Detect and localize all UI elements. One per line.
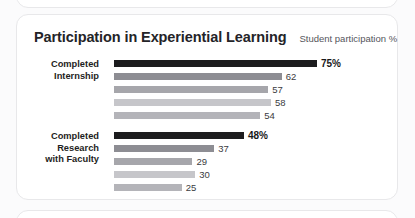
bar-group-label-line: with Faculty bbox=[17, 154, 99, 166]
bar bbox=[114, 60, 317, 67]
chart-subtitle: Student participation % bbox=[299, 33, 397, 44]
bar-row: 37 bbox=[114, 144, 399, 153]
bar-chart-plot: CompletedInternship75%62575854CompletedR… bbox=[17, 59, 399, 192]
bar-row: 57 bbox=[114, 85, 399, 94]
bar-value-label: 48% bbox=[248, 131, 268, 140]
bar bbox=[114, 184, 182, 191]
bar-row: 25 bbox=[114, 183, 399, 192]
chart-header: Participation in Experiential Learning S… bbox=[34, 29, 385, 45]
bar-value-label: 25 bbox=[186, 183, 197, 192]
bar-value-label: 62 bbox=[286, 72, 297, 81]
bar-row: 62 bbox=[114, 72, 399, 81]
bar-group-bars: 75%62575854 bbox=[114, 59, 399, 120]
bar-row: 30 bbox=[114, 170, 399, 179]
bar bbox=[114, 158, 192, 165]
bar-group: CompletedResearchwith Faculty48%37293025 bbox=[17, 131, 399, 192]
bar bbox=[114, 112, 260, 119]
card-above-partial bbox=[16, 0, 398, 8]
bar-group-label-line: Completed bbox=[17, 131, 99, 143]
chart-card: Participation in Experiential Learning S… bbox=[16, 14, 398, 200]
card-below-partial bbox=[16, 210, 398, 218]
page-title: Participation in Experiential Learning bbox=[34, 29, 286, 45]
bar-group-label-line: Completed bbox=[17, 59, 99, 71]
bar bbox=[114, 99, 271, 106]
bar-group-bars: 48%37293025 bbox=[114, 131, 399, 192]
bar-row: 29 bbox=[114, 157, 399, 166]
bar-value-label: 57 bbox=[272, 85, 283, 94]
bar-value-label: 29 bbox=[196, 157, 207, 166]
bar bbox=[114, 171, 195, 178]
bar-value-label: 30 bbox=[199, 170, 210, 179]
bar-row: 48% bbox=[114, 131, 399, 140]
bar-row: 54 bbox=[114, 111, 399, 120]
bar bbox=[114, 86, 268, 93]
bar-group-label-line: Internship bbox=[17, 71, 99, 83]
bar-value-label: 75% bbox=[321, 59, 341, 68]
bar bbox=[114, 132, 244, 139]
bar bbox=[114, 73, 282, 80]
bar-row: 58 bbox=[114, 98, 399, 107]
bar-group-label: CompletedResearchwith Faculty bbox=[17, 131, 99, 166]
bar-group-label-line: Research bbox=[17, 143, 99, 155]
bar-value-label: 58 bbox=[275, 98, 286, 107]
bar-row: 75% bbox=[114, 59, 399, 68]
bar bbox=[114, 145, 214, 152]
bar-group: CompletedInternship75%62575854 bbox=[17, 59, 399, 120]
bar-group-label: CompletedInternship bbox=[17, 59, 99, 82]
bar-value-label: 54 bbox=[264, 111, 275, 120]
bar-value-label: 37 bbox=[218, 144, 229, 153]
